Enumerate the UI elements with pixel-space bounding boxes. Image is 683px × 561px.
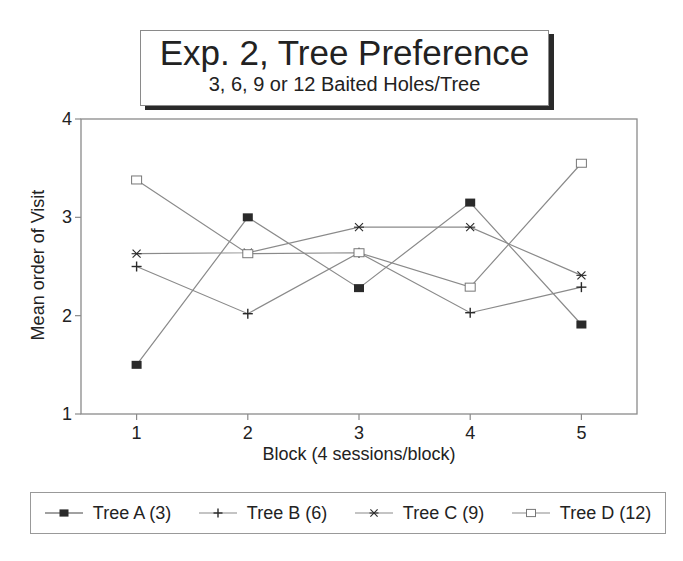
y-tick-label: 3	[62, 207, 72, 227]
asterisk-marker-icon	[355, 506, 393, 520]
legend-label: Tree D (12)	[560, 503, 651, 524]
legend-label: Tree A (3)	[93, 503, 171, 524]
x-tick-label: 4	[465, 423, 475, 443]
chart-plot: 123412345 Mean order of Visit Block (4 s…	[0, 0, 683, 561]
legend-label: Tree B (6)	[247, 503, 327, 524]
markers-open-square	[132, 159, 587, 291]
series-layer	[132, 159, 587, 369]
plus-marker-icon	[199, 506, 237, 520]
x-tick-label: 5	[576, 423, 586, 443]
markers-plus	[132, 248, 587, 319]
legend-item-tree-b: Tree B (6)	[199, 503, 327, 524]
legend-item-tree-c: Tree C (9)	[355, 503, 484, 524]
x-tick-label: 3	[354, 423, 364, 443]
legend-item-tree-a: Tree A (3)	[45, 503, 171, 524]
x-tick-label: 1	[132, 423, 142, 443]
legend: Tree A (3) Tree B (6) Tree C (9) Tree D …	[30, 492, 666, 534]
open-square-marker-icon	[512, 506, 550, 520]
axes: 123412345	[62, 109, 637, 443]
legend-item-tree-d: Tree D (12)	[512, 503, 651, 524]
filled-square-marker-icon	[45, 506, 83, 520]
y-tick-label: 1	[62, 404, 72, 424]
markers-filled-square	[132, 199, 587, 369]
y-tick-label: 4	[62, 109, 72, 129]
y-tick-label: 2	[62, 306, 72, 326]
x-tick-label: 2	[243, 423, 253, 443]
y-axis-label: Mean order of Visit	[28, 190, 48, 341]
series-tree-b-6	[137, 253, 582, 314]
legend-label: Tree C (9)	[403, 503, 484, 524]
series-tree-d-12	[137, 163, 582, 287]
x-axis-label: Block (4 sessions/block)	[262, 444, 455, 464]
plot-frame	[81, 119, 637, 414]
